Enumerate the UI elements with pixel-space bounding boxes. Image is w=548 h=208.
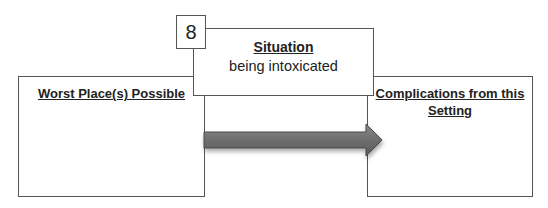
situation-box: Situation being intoxicated [193,28,374,96]
right-arrow-icon [200,118,390,162]
complications-heading: Complications from this Setting [368,85,532,119]
situation-text: being intoxicated [194,58,373,74]
arrow-shape [204,124,382,156]
complications-box: Complications from this Setting [367,76,533,197]
number-label: 8 [185,21,196,44]
number-badge: 8 [176,15,206,49]
situation-heading: Situation [194,39,373,56]
worst-places-heading: Worst Place(s) Possible [19,85,204,102]
worst-places-box: Worst Place(s) Possible [18,76,205,197]
